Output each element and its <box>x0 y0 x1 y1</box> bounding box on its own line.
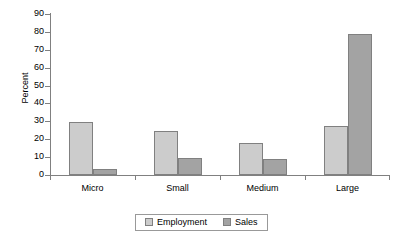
y-axis-label-wrap: 50 <box>0 81 44 90</box>
y-axis-label-wrap: 70 <box>0 45 44 54</box>
y-axis-label-wrap: 30 <box>0 116 44 125</box>
legend-label-employment: Employment <box>157 218 207 227</box>
y-axis-label: 40 <box>2 98 44 107</box>
legend: Employment Sales <box>135 214 268 231</box>
y-axis-label: 30 <box>2 116 44 125</box>
y-axis-label: 20 <box>2 134 44 143</box>
bar-large-employment <box>324 126 348 175</box>
y-axis-label: 0 <box>2 170 44 179</box>
legend-item-employment: Employment <box>145 218 207 227</box>
x-axis-tick <box>389 176 390 180</box>
x-axis-tick <box>305 176 306 180</box>
x-axis-label-medium: Medium <box>220 183 305 194</box>
y-axis-label-wrap: 10 <box>0 152 44 161</box>
y-axis-label-wrap: 80 <box>0 27 44 36</box>
y-axis-label: 70 <box>2 45 44 54</box>
y-axis-label-wrap: 40 <box>0 98 44 107</box>
x-axis-label-large: Large <box>305 183 390 194</box>
y-axis-label-wrap: 60 <box>0 63 44 72</box>
legend-swatch-employment-icon <box>145 218 153 226</box>
y-axis-label-wrap: 0 <box>0 170 44 179</box>
bars-layer <box>50 14 390 175</box>
legend-swatch-sales-icon <box>223 218 231 226</box>
x-axis-label-small: Small <box>135 183 220 194</box>
bar-micro-employment <box>69 122 93 175</box>
y-axis-label: 60 <box>2 63 44 72</box>
x-axis-label-micro: Micro <box>50 183 135 194</box>
bar-chart: Percent 9080706050403020100 MicroSmallMe… <box>0 0 400 243</box>
y-axis-label: 50 <box>2 81 44 90</box>
bar-small-employment <box>154 131 178 175</box>
x-axis-tick <box>220 176 221 180</box>
y-axis-label: 80 <box>2 27 44 36</box>
x-axis-tick <box>50 176 51 180</box>
legend-item-sales: Sales <box>223 218 258 227</box>
bar-small-sales <box>178 158 202 175</box>
bar-medium-employment <box>239 143 263 175</box>
y-axis-label: 90 <box>2 9 44 18</box>
bar-medium-sales <box>263 159 287 175</box>
x-axis-tick <box>135 176 136 180</box>
y-axis-label: 10 <box>2 152 44 161</box>
y-axis-label-wrap: 90 <box>0 9 44 18</box>
bar-large-sales <box>348 34 372 175</box>
bar-micro-sales <box>93 169 117 175</box>
y-axis-label-wrap: 20 <box>0 134 44 143</box>
legend-label-sales: Sales <box>235 218 258 227</box>
